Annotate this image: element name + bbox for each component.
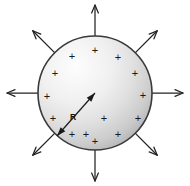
charge-symbol: + <box>140 89 146 101</box>
charged-sphere-diagram: ++++++++++++++ R <box>0 0 190 186</box>
charge-symbol: + <box>44 90 50 102</box>
charge-symbol: + <box>69 128 75 140</box>
charge-symbol: + <box>52 67 58 79</box>
charge-symbol: + <box>92 44 98 56</box>
charge-symbol: + <box>135 112 141 124</box>
charge-symbol: + <box>115 51 121 63</box>
charge-symbol: + <box>115 128 121 140</box>
charge-symbol: + <box>92 135 98 147</box>
charge-symbol: + <box>101 112 107 124</box>
charge-symbol: + <box>69 50 75 62</box>
charge-symbol: + <box>132 67 138 79</box>
charge-symbol: + <box>50 112 56 124</box>
charge-symbol: + <box>83 128 89 140</box>
figure-container: ++++++++++++++ R <box>0 0 190 186</box>
radius-label: R <box>70 112 76 122</box>
